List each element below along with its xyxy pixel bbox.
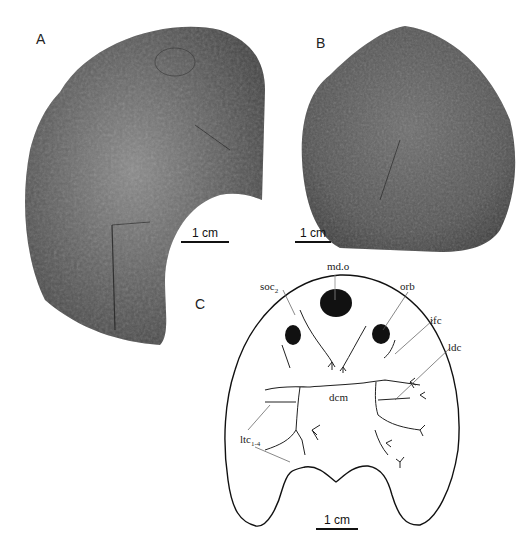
label-md-o: md.o [327, 260, 350, 272]
head-shield-drawing: md.o soc2 orb ifc ldc dcm ltc1-4 [0, 0, 530, 552]
label-ldc: ldc [448, 341, 462, 353]
scale-bar-c-label: 1 cm [316, 513, 358, 527]
scale-bar-c: 1 cm [316, 513, 358, 530]
label-ltc: ltc1-4 [240, 433, 261, 448]
label-dcm: dcm [329, 391, 348, 403]
label-ifc: ifc [430, 314, 442, 326]
label-soc: soc2 [260, 280, 279, 295]
label-orb: orb [400, 280, 415, 292]
scale-bar-c-line [316, 528, 358, 530]
